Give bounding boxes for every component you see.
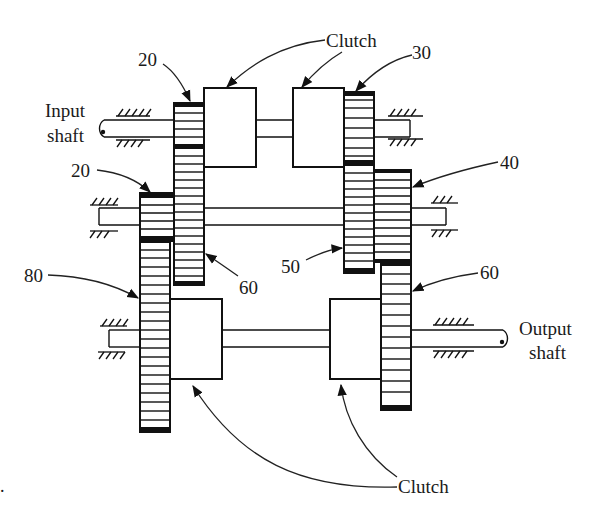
leader-gear-counter-60 (206, 254, 238, 276)
label-input-shaft-2: shaft (47, 125, 85, 146)
gear-input-30 (344, 92, 374, 165)
gear-output-60 (381, 262, 411, 410)
bearing-counter-right (431, 196, 458, 237)
label-gear-counter-20: 20 (71, 160, 90, 181)
bearing-output-left (98, 319, 128, 359)
clutch-top-right (293, 88, 344, 167)
label-input-shaft-1: Input (45, 100, 86, 121)
leader-gear-counter-20 (97, 170, 150, 192)
leader-gear-output-80 (48, 275, 138, 298)
label-gear-input-30: 30 (412, 42, 431, 63)
leader-gear-input-30 (356, 55, 412, 91)
label-gear-input-20: 20 (138, 49, 157, 70)
label-output-shaft-2: shaft (529, 342, 567, 363)
gear-counter-50 (344, 165, 374, 273)
gear-input-20 (174, 103, 204, 148)
input-shaft-right-stub (374, 120, 410, 137)
label-gear-counter-40: 40 (500, 152, 519, 173)
gear-counter-40 (374, 170, 411, 262)
label-output-shaft-1: Output (519, 318, 573, 339)
label-clutch-top: Clutch (326, 30, 377, 51)
leader-clutch-top-left (227, 40, 325, 87)
gear-counter-20 (140, 193, 174, 242)
gear-output-80 (140, 242, 170, 432)
clutch-bottom-left (170, 299, 222, 379)
label-gear-output-60: 60 (480, 262, 499, 283)
leader-gear-counter-40 (413, 162, 498, 187)
bearing-output-right (433, 318, 474, 358)
bearing-input (116, 109, 151, 147)
clutch-bottom-right (330, 299, 381, 379)
bearing-input-right (388, 109, 423, 146)
gearbox-diagram: Clutch 20 30 Input shaft 20 40 60 50 80 … (0, 0, 603, 513)
label-gear-counter-60: 60 (239, 277, 258, 298)
leader-clutch-bottom-left (193, 386, 397, 487)
footnote-mark: . (0, 476, 5, 496)
leader-gear-counter-50 (306, 248, 342, 260)
gear-counter-60-left (174, 148, 204, 285)
leader-clutch-top-right (302, 52, 342, 87)
leader-gear-input-20 (163, 64, 190, 101)
label-gear-counter-50: 50 (281, 256, 300, 277)
label-clutch-bottom: Clutch (398, 476, 449, 497)
label-gear-output-80: 80 (24, 265, 43, 286)
input-shaft (100, 120, 176, 137)
bearing-counter-left (90, 198, 118, 238)
clutch-top-left (204, 88, 256, 167)
input-shaft-inner (256, 120, 293, 137)
leader-gear-output-60 (413, 273, 478, 291)
